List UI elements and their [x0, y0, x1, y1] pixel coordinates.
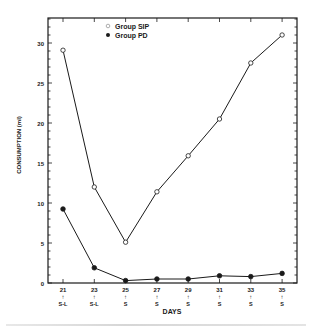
y-tick-label: 10 — [37, 201, 44, 207]
open-circle-marker — [249, 61, 253, 65]
filled-circle-marker — [280, 271, 285, 276]
x-tick-label: 31 — [216, 287, 223, 293]
x-tick-label: 33 — [247, 287, 254, 293]
up-arrow-icon: ↑ — [155, 294, 158, 300]
y-tick-label: 15 — [37, 161, 44, 167]
up-arrow-icon: ↑ — [124, 294, 127, 300]
up-arrow-icon: ↑ — [62, 294, 65, 300]
filled-circle-marker — [155, 277, 160, 282]
x-tick-label: 35 — [279, 287, 286, 293]
x-sub-label: S — [124, 301, 128, 307]
x-sub-label: S — [155, 301, 159, 307]
open-circle-marker — [155, 190, 159, 194]
open-circle-marker — [92, 185, 96, 189]
filled-circle-marker — [186, 277, 191, 282]
open-circle-marker — [61, 48, 65, 52]
y-axis: 051015202530 — [37, 19, 297, 287]
up-arrow-icon: ↑ — [93, 294, 96, 300]
x-sub-label: S — [280, 301, 284, 307]
x-sub-label: S-L — [59, 301, 69, 307]
up-arrow-icon: ↑ — [218, 294, 221, 300]
y-tick-label: 30 — [37, 41, 44, 47]
legend-open-circle-icon — [106, 24, 110, 28]
open-circle-marker — [186, 154, 190, 158]
filled-circle-marker — [249, 274, 254, 279]
x-sub-label: S — [186, 301, 190, 307]
legend-label-sip: Group SIP — [115, 23, 150, 31]
up-arrow-icon: ↑ — [281, 294, 284, 300]
filled-circle-marker — [61, 207, 66, 212]
cropped-caption-text — [6, 324, 306, 326]
x-sub-label: S-L — [90, 301, 100, 307]
x-tick-label: 25 — [122, 287, 129, 293]
up-arrow-icon: ↑ — [187, 294, 190, 300]
x-sub-label: S — [218, 301, 222, 307]
y-tick-label: 20 — [37, 121, 44, 127]
open-circle-marker — [280, 33, 284, 37]
x-tick-label: 21 — [60, 287, 67, 293]
legend-label-pd: Group PD — [115, 32, 148, 40]
x-sub-label: S — [249, 301, 253, 307]
y-tick-label: 0 — [41, 281, 45, 287]
plot-frame — [48, 18, 297, 283]
plot-series — [61, 33, 285, 283]
y-tick-label: 25 — [37, 81, 44, 87]
up-arrow-icon: ↑ — [249, 294, 252, 300]
y-axis-title: CONSUMPTION (ml) — [16, 116, 22, 174]
x-tick-label: 23 — [91, 287, 98, 293]
series-line-sip — [63, 35, 282, 242]
x-tick-label: 27 — [154, 287, 161, 293]
legend: Group SIP Group PD — [106, 23, 150, 40]
line-chart: 051015202530 21↑S-L23↑S-L25↑S27↑S29↑S31↑… — [0, 0, 313, 331]
filled-circle-marker — [123, 278, 128, 283]
filled-circle-marker — [92, 266, 97, 271]
filled-circle-marker — [217, 274, 222, 279]
x-axis-title: DAYS — [163, 308, 182, 315]
y-tick-label: 5 — [41, 241, 45, 247]
open-circle-marker — [123, 240, 127, 244]
open-circle-marker — [217, 117, 221, 121]
legend-filled-circle-icon — [106, 33, 110, 37]
x-tick-label: 29 — [185, 287, 192, 293]
